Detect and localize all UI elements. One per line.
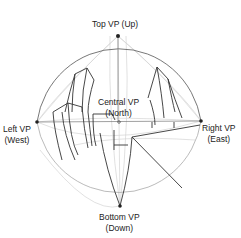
- right-vp-label: Right VP (East): [202, 123, 236, 145]
- bottom-vp-label: Bottom VP (Down): [99, 212, 140, 234]
- bottom-vp-label-line2: (Down): [99, 223, 140, 234]
- bottom-vp-label-line1: Bottom VP: [99, 212, 140, 223]
- left-vp-label-line1: Left VP: [3, 124, 31, 135]
- right-vp-label-line1: Right VP: [202, 123, 236, 134]
- bottom-vp-dot: [118, 204, 122, 208]
- central-vp-label-line2: (North): [98, 108, 139, 119]
- central-vp-label-line1: Central VP: [98, 97, 139, 108]
- top-vp-label: Top VP (Up): [92, 19, 138, 30]
- left-vp-dot: [35, 120, 39, 124]
- perspective-diagram: [0, 0, 241, 238]
- central-vp-label: Central VP (North): [98, 97, 139, 119]
- top-vp-dot: [116, 34, 120, 38]
- left-vp-label-line2: (West): [3, 135, 31, 146]
- building-sketches: [53, 67, 200, 206]
- left-vp-label: Left VP (West): [3, 124, 31, 146]
- horizon-line: [37, 121, 201, 122]
- top-vp-label-line1: Top VP (Up): [92, 19, 138, 30]
- right-vp-label-line2: (East): [202, 134, 236, 145]
